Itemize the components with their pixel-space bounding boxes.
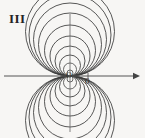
x-axis-arrowhead [133,73,140,79]
figure-panel: III O 0 [0,0,145,138]
x-tick-label: 0 [85,77,90,86]
panel-label: III [9,12,26,25]
origin-label: O [66,72,72,80]
axes-group [4,14,140,132]
